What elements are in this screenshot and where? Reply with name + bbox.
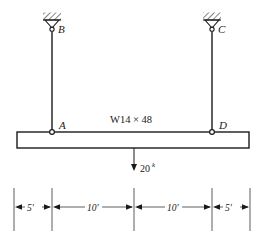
support-c-hatch-block bbox=[203, 13, 221, 21]
support-b: B bbox=[43, 13, 65, 36]
dim-segment-4: 5' bbox=[213, 203, 249, 213]
dim-segment-3-label: 10' bbox=[167, 203, 180, 213]
dim-segment-2-arrow-left bbox=[53, 204, 60, 209]
dim-segment-2: 10' bbox=[53, 203, 133, 213]
dim-segment-4-arrow-right bbox=[242, 204, 249, 209]
joint-a-pin bbox=[50, 130, 55, 135]
joint-a-label: A bbox=[58, 119, 66, 131]
dim-segment-1-arrow-right bbox=[44, 204, 51, 209]
joint-b-label: B bbox=[58, 23, 65, 35]
dim-segment-2-label: 10' bbox=[87, 203, 100, 213]
dim-segment-4-label: 5' bbox=[225, 203, 233, 213]
applied-load-20k: 20 k bbox=[131, 148, 156, 174]
dim-segment-3-arrow-left bbox=[135, 204, 142, 209]
diagram-canvas: B C W14 × 48 A D 20 bbox=[0, 0, 267, 238]
dim-segment-3-arrow-right bbox=[204, 204, 211, 209]
dim-segment-4-arrow-left bbox=[213, 204, 220, 209]
dim-segment-3: 10' bbox=[135, 203, 211, 213]
beam-section-label: W14 × 48 bbox=[110, 114, 152, 125]
dim-segment-1-label: 5' bbox=[27, 203, 35, 213]
joint-c-label: C bbox=[218, 23, 226, 35]
joint-d-pin bbox=[210, 130, 215, 135]
joint-c-pin bbox=[210, 27, 214, 31]
dim-segment-1: 5' bbox=[15, 203, 51, 213]
joint-b-pin bbox=[50, 27, 54, 31]
dim-segment-1-arrow-left bbox=[15, 204, 22, 209]
load-unit-superscript: k bbox=[152, 161, 156, 169]
support-c: C bbox=[203, 13, 226, 36]
dim-segment-2-arrow-right bbox=[126, 204, 133, 209]
beam-diagram-figure: B C W14 × 48 A D 20 bbox=[0, 0, 267, 238]
load-arrow-head bbox=[131, 164, 137, 171]
dimension-extension-lines bbox=[14, 188, 250, 231]
load-value-label: 20 bbox=[140, 163, 150, 174]
joint-d-label: D bbox=[218, 119, 227, 131]
support-b-hatch-block bbox=[43, 13, 61, 21]
